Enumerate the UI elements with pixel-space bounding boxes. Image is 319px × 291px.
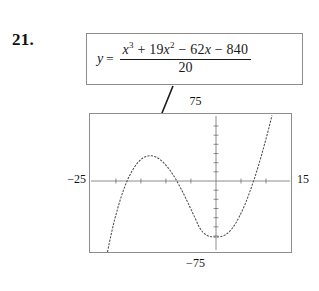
numerator-exponent-1: 3	[129, 40, 134, 50]
numerator-term-3: x	[205, 42, 211, 57]
equation-expression: y = x3 + 19x2 − 62x − 840 20	[97, 43, 251, 75]
graphing-calculator-screen	[89, 113, 292, 253]
equation-lhs: y	[97, 51, 103, 67]
numerator-operator-2: −	[178, 42, 186, 57]
window-ymin-label: −75	[36, 256, 319, 271]
graph-plot	[90, 114, 291, 252]
fraction-numerator: x3 + 19x2 − 62x − 840	[120, 43, 252, 59]
numerator-coefficient-2: 19	[149, 42, 163, 57]
numerator-operator-1: +	[137, 42, 145, 57]
numerator-constant: 840	[227, 42, 249, 57]
window-xmin-label: −25	[67, 172, 86, 187]
equals-sign: =	[106, 51, 113, 67]
fraction: x3 + 19x2 − 62x − 840 20	[120, 43, 252, 75]
cubic-curve	[108, 116, 273, 253]
numerator-operator-3: −	[215, 42, 223, 57]
numerator-coefficient-3: 62	[190, 42, 204, 57]
window-ymax-label: 75	[36, 94, 319, 109]
window-xmax-label: 15	[297, 172, 309, 187]
equation-box: y = x3 + 19x2 − 62x − 840 20	[86, 33, 303, 85]
numerator-exponent-2: 2	[170, 40, 175, 50]
exercise-number: 21.	[12, 30, 34, 50]
fraction-denominator: 20	[178, 60, 192, 76]
